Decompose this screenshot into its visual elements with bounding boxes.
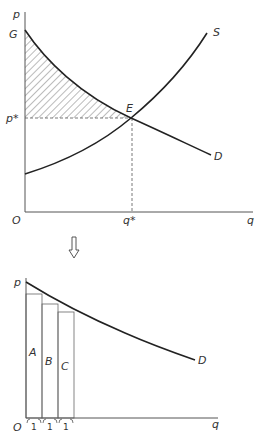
unit-label-2: 1 xyxy=(47,422,53,432)
quantity-label: q* xyxy=(123,214,136,227)
origin-label: O xyxy=(13,421,22,434)
bar-label-c: C xyxy=(61,360,69,373)
equilibrium-label: E xyxy=(126,102,133,115)
supply-demand-diagram: p G p* E S D O q* q xyxy=(5,8,254,227)
demand-label: D xyxy=(198,354,206,367)
down-arrow-icon xyxy=(69,237,79,258)
demand-curve xyxy=(26,282,195,360)
unit-label-3: 1 xyxy=(63,422,69,432)
y-axis-label: p xyxy=(13,276,21,289)
consumer-surplus-area xyxy=(25,30,131,118)
marginal-value-diagram: p A B C D O 1 1 1 q xyxy=(13,276,219,434)
unit-label-1: 1 xyxy=(31,422,37,432)
origin-label: O xyxy=(12,214,21,227)
x-axis-label: q xyxy=(247,214,254,227)
demand-label: D xyxy=(214,150,222,163)
diagram-canvas: p G p* E S D O q* q p A B C D O 1 1 1 q xyxy=(0,0,268,437)
price-label: p* xyxy=(5,112,19,125)
bar-label-b: B xyxy=(45,355,53,368)
x-axis-label: q xyxy=(212,418,219,431)
bar-label-a: A xyxy=(28,346,37,359)
y-axis-label: p xyxy=(12,8,20,21)
supply-label: S xyxy=(213,26,220,39)
intercept-label: G xyxy=(9,28,18,41)
